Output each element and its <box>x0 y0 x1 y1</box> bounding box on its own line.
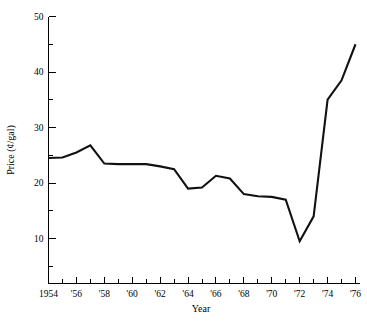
x-axis-title: Year <box>192 303 211 314</box>
x-tick-label: '60 <box>127 289 138 299</box>
y-axis-title: Price (¢/gal) <box>5 125 17 175</box>
x-tick-label: '58 <box>99 289 110 299</box>
x-tick-label: 1954 <box>39 289 58 299</box>
price-per-gallon-line-chart: 1020304050 1954'56'58'60'62'64'66'68'70'… <box>0 0 367 325</box>
y-tick-label: 10 <box>34 234 44 244</box>
y-tick-label: 30 <box>34 123 44 133</box>
x-tick-label: '76 <box>350 289 361 299</box>
x-tick-label: '68 <box>238 289 249 299</box>
x-tick-label: '74 <box>322 289 333 299</box>
y-axis: 1020304050 <box>34 12 56 284</box>
x-tick-label: '64 <box>182 289 193 299</box>
x-tick-label: '62 <box>155 289 166 299</box>
data-series-group <box>49 44 356 241</box>
y-axis-major-ticks <box>49 17 56 239</box>
x-tick-label: '70 <box>266 289 277 299</box>
y-tick-label: 40 <box>34 67 44 77</box>
y-axis-minor-ticks <box>49 44 54 266</box>
y-tick-label: 20 <box>34 178 44 188</box>
x-tick-label: '66 <box>210 289 221 299</box>
y-axis-tick-labels: 1020304050 <box>34 12 44 244</box>
chart-canvas: 1020304050 1954'56'58'60'62'64'66'68'70'… <box>0 0 367 325</box>
x-axis: 1954'56'58'60'62'64'66'68'70'72'74'76 <box>39 277 361 299</box>
y-tick-label: 50 <box>34 12 44 22</box>
x-axis-tick-labels: 1954'56'58'60'62'64'66'68'70'72'74'76 <box>39 289 361 299</box>
data-line-price <box>49 44 356 241</box>
x-tick-label: '56 <box>71 289 82 299</box>
x-tick-label: '72 <box>294 289 305 299</box>
